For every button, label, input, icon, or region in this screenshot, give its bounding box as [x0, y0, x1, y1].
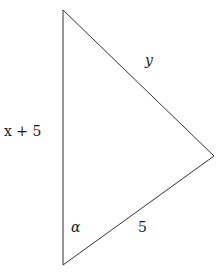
angle-alpha-label: α [71, 219, 81, 235]
triangle-diagram: x + 5 y α 5 [0, 0, 224, 274]
bottom-side-label: 5 [138, 219, 147, 235]
left-side-label: x + 5 [4, 123, 41, 139]
upper-side-label: y [144, 52, 154, 68]
